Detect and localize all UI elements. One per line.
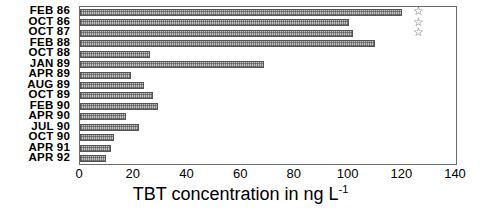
bar — [80, 61, 264, 68]
bar — [80, 30, 353, 37]
x-axis-tick: 20 — [125, 166, 139, 181]
bar-row — [80, 19, 456, 26]
bar-row — [80, 30, 456, 37]
bar — [80, 124, 139, 131]
bar-row — [80, 82, 456, 89]
chart-figure: FEB 86OCT 86OCT 87FEB 88OCT 88JAN 89APR … — [0, 0, 481, 215]
bar — [80, 113, 126, 120]
bar — [80, 51, 150, 58]
x-axis-tick-labels: 020406080100120140 — [79, 166, 455, 184]
bar-row — [80, 72, 456, 79]
y-axis-category-labels: FEB 86OCT 86OCT 87FEB 88OCT 88JAN 89APR … — [0, 6, 74, 163]
bar-row — [80, 51, 456, 58]
bar-row — [80, 103, 456, 110]
x-axis-tick: 140 — [444, 166, 466, 181]
bar — [80, 19, 349, 26]
x-axis-title-exponent: -1 — [339, 183, 349, 195]
bar — [80, 92, 153, 99]
x-axis-tick: 100 — [337, 166, 359, 181]
x-axis-tick: 0 — [75, 166, 82, 181]
bar-row — [80, 40, 456, 47]
bar — [80, 134, 114, 141]
x-axis-tick: 80 — [287, 166, 301, 181]
star-annotation-icon: ☆ — [413, 26, 424, 38]
y-axis-label: FEB 86 — [0, 6, 74, 15]
x-axis-tick: 40 — [179, 166, 193, 181]
bar-row — [80, 155, 456, 162]
bar — [80, 103, 158, 110]
bar-series: ☆☆☆ — [80, 7, 456, 164]
plot-area: ☆☆☆ — [79, 6, 457, 165]
bar — [80, 72, 131, 79]
bar-row — [80, 124, 456, 131]
bar — [80, 145, 111, 152]
bar-row — [80, 92, 456, 99]
bar — [80, 40, 375, 47]
bar — [80, 155, 106, 162]
bar-row — [80, 113, 456, 120]
x-axis-tick: 60 — [233, 166, 247, 181]
bar-row — [80, 61, 456, 68]
x-axis-tick: 120 — [390, 166, 412, 181]
x-axis-title: TBT concentration in ng L-1 — [0, 184, 481, 205]
bar-row — [80, 145, 456, 152]
bar — [80, 9, 402, 16]
y-axis-label: APR 92 — [0, 153, 74, 162]
bar-row — [80, 9, 456, 16]
x-axis-title-text: TBT concentration in ng L — [133, 184, 339, 204]
bar-row — [80, 134, 456, 141]
bar — [80, 82, 144, 89]
